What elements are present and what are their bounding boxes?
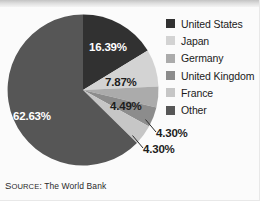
pie-graphic: 16.39% 7.87% 4.49% 4.30% 4.30% 62.63%	[4, 14, 162, 166]
legend-item-japan[interactable]: Japan	[166, 32, 258, 49]
legend-swatch-icon-united-kingdom	[166, 71, 175, 80]
legend-item-united-kingdom[interactable]: United Kingdom	[166, 67, 258, 84]
source-note: SOURCE: The World Bank	[5, 180, 106, 191]
source-prefix-smallcaps: OURCE	[11, 182, 39, 191]
legend-item-germany[interactable]: Germany	[166, 50, 258, 67]
legend: United States Japan Germany United Kingd…	[166, 15, 258, 119]
pie-svg	[4, 14, 162, 166]
slice-label-united-states: 16.39%	[89, 41, 127, 53]
source-text: The World Bank	[44, 181, 106, 191]
legend-label-japan: Japan	[181, 35, 209, 47]
slice-label-germany: 4.49%	[110, 100, 142, 112]
legend-label-united-states: United States	[181, 18, 243, 30]
legend-item-france[interactable]: France	[166, 84, 258, 101]
slice-label-other: 62.63%	[13, 110, 51, 122]
legend-swatch-icon-japan	[166, 36, 175, 45]
pie-chart-figure: 16.39% 7.87% 4.49% 4.30% 4.30% 62.63% Un…	[0, 0, 260, 201]
legend-label-other: Other	[181, 104, 207, 116]
legend-item-other[interactable]: Other	[166, 101, 258, 118]
legend-swatch-icon-germany	[166, 54, 175, 63]
legend-swatch-icon-france	[166, 88, 175, 97]
slice-label-united-kingdom: 4.30%	[156, 127, 188, 139]
legend-swatch-icon-other	[166, 106, 175, 115]
slice-label-japan: 7.87%	[105, 76, 137, 88]
legend-label-france: France	[181, 87, 213, 99]
legend-item-united-states[interactable]: United States	[166, 15, 258, 32]
chart-area: 16.39% 7.87% 4.49% 4.30% 4.30% 62.63% Un…	[0, 7, 260, 201]
cropped-title-band	[0, 0, 260, 7]
slice-label-france: 4.30%	[143, 143, 175, 155]
legend-label-germany: Germany	[181, 52, 223, 64]
legend-swatch-icon-united-states	[166, 19, 175, 28]
legend-label-united-kingdom: United Kingdom	[181, 70, 254, 82]
